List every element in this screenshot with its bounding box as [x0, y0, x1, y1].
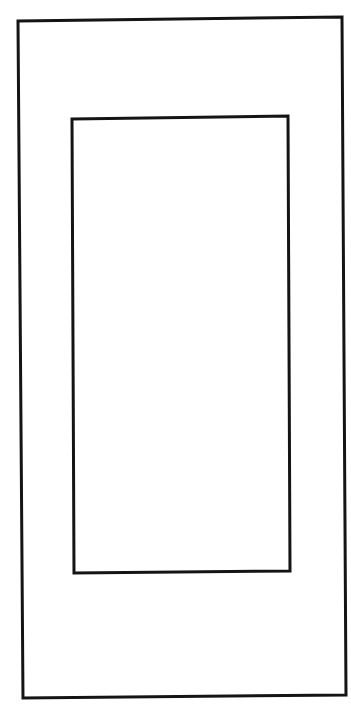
outer-rectangle — [18, 17, 346, 698]
inner-rectangle — [72, 116, 290, 573]
line-drawing-canvas — [0, 0, 351, 714]
